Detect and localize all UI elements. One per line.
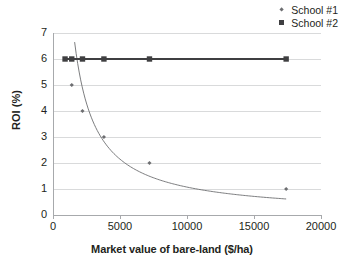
data-point-1-3 — [101, 56, 106, 61]
data-point-1-0 — [62, 56, 67, 61]
data-point-1-1 — [69, 56, 74, 61]
series-school-2 — [62, 56, 288, 61]
y-axis-title: ROI (%) — [10, 70, 22, 150]
x-axis-title: Market value of bare-land ($/ha) — [0, 243, 344, 255]
data-point-1-4 — [147, 56, 152, 61]
series-line-0 — [75, 42, 287, 199]
series-school-1 — [63, 42, 288, 199]
data-point-0-4 — [147, 161, 151, 165]
data-series-layer — [0, 0, 344, 267]
data-point-1-5 — [283, 56, 288, 61]
chart-container: School #1 School #2 01234567 05000100001… — [0, 0, 344, 267]
data-point-0-3 — [102, 135, 106, 139]
data-point-0-1 — [70, 83, 74, 87]
data-point-0-2 — [80, 109, 84, 113]
data-point-1-2 — [80, 56, 85, 61]
data-point-0-5 — [284, 187, 288, 191]
